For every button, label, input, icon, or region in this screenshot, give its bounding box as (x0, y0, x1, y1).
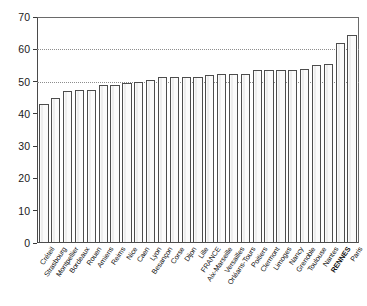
bar (253, 70, 262, 243)
y-tick-mark-0 (33, 243, 37, 244)
bar (312, 65, 321, 243)
bar (193, 77, 202, 243)
y-tick-mark-60 (33, 49, 37, 50)
bar (99, 85, 108, 243)
y-tick-label-70: 70 (4, 12, 30, 23)
bar (170, 77, 179, 243)
x-axis-labels: CréteilStrasbourgMontpellierBordeauxRoue… (38, 243, 358, 306)
bar (217, 74, 226, 244)
bar (39, 104, 48, 243)
y-tick-label-30: 30 (4, 141, 30, 152)
y-tick-label-60: 60 (4, 44, 30, 55)
x-axis-label: Paris (348, 245, 364, 263)
y-tick-mark-50 (33, 81, 37, 82)
bar (158, 77, 167, 243)
bar (205, 75, 214, 243)
y-tick-label-0: 0 (4, 238, 30, 249)
y-tick-mark-20 (33, 178, 37, 179)
bar (134, 82, 143, 243)
bar (63, 91, 72, 243)
bar (87, 90, 96, 243)
y-tick-label-20: 20 (4, 173, 30, 184)
bar (241, 74, 250, 244)
bar (336, 43, 345, 243)
y-tick-mark-30 (33, 146, 37, 147)
bar (264, 70, 273, 243)
bar (347, 35, 356, 243)
bars-series (38, 17, 358, 243)
bar (182, 77, 191, 243)
y-tick-mark-70 (33, 17, 37, 18)
y-tick-label-40: 40 (4, 109, 30, 120)
bar (146, 80, 155, 243)
y-tick-label-10: 10 (4, 205, 30, 216)
bar (300, 69, 309, 243)
bar (122, 83, 131, 243)
bar (75, 90, 84, 243)
y-tick-label-50: 50 (4, 76, 30, 87)
bar (324, 64, 333, 243)
bar (229, 74, 238, 244)
y-tick-mark-40 (33, 113, 37, 114)
bar (276, 70, 285, 243)
bar (288, 70, 297, 243)
bar (110, 85, 119, 243)
bar (51, 98, 60, 243)
bar-chart: 010203040506070 CréteilStrasbourgMontpel… (0, 0, 367, 306)
y-tick-mark-10 (33, 210, 37, 211)
